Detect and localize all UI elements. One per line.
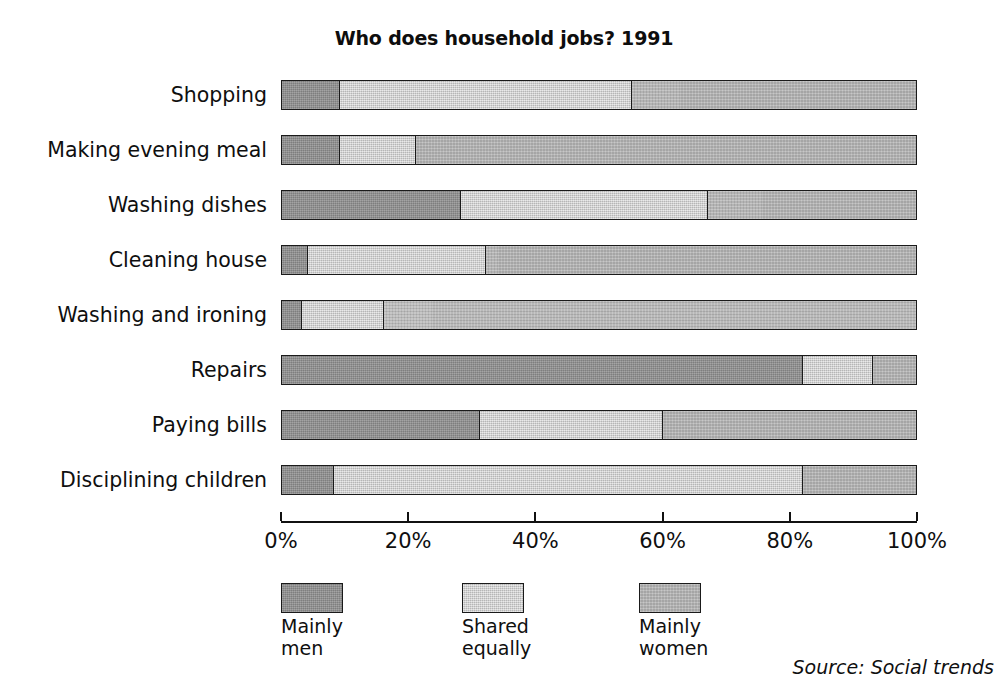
bar-segment	[307, 246, 485, 274]
legend-label-shared-equally: Shared equally	[462, 615, 632, 659]
bar-category-label: Cleaning house	[0, 245, 281, 275]
bar-segment	[282, 81, 339, 109]
bar-track	[281, 410, 917, 440]
x-axis-tick	[916, 512, 918, 521]
x-axis-tick	[534, 512, 536, 521]
legend-swatch-mainly-men	[281, 583, 343, 613]
bar-track	[281, 300, 917, 330]
bar-row: Washing dishes	[281, 190, 917, 220]
bar-segment	[707, 191, 916, 219]
bar-segment	[383, 301, 916, 329]
bar-track	[281, 245, 917, 275]
x-axis-tick-label: 20%	[348, 529, 468, 553]
x-axis-tick	[662, 512, 664, 521]
bar-category-label: Repairs	[0, 355, 281, 385]
bar-segment	[282, 136, 339, 164]
x-axis-tick-label: 60%	[603, 529, 723, 553]
bar-category-label: Washing and ironing	[0, 300, 281, 330]
legend-swatch-shared-equally	[462, 583, 524, 613]
legend-label-line2: women	[639, 637, 809, 659]
legend-item-mainly-men: Mainly men	[281, 583, 451, 659]
bar-segment	[339, 136, 415, 164]
bar-category-label: Making evening meal	[0, 135, 281, 165]
x-axis-line	[281, 521, 917, 523]
bar-segment	[282, 246, 307, 274]
x-axis-tick-label: 0%	[221, 529, 341, 553]
x-axis-tick-label: 100%	[857, 529, 977, 553]
x-axis-tick	[407, 512, 409, 521]
bar-segment	[460, 191, 707, 219]
bar-category-label: Disciplining children	[0, 465, 281, 495]
legend-label-line1: Mainly	[281, 615, 451, 637]
legend-swatch-mainly-women	[639, 583, 701, 613]
bar-segment	[415, 136, 916, 164]
bar-segment	[333, 466, 802, 494]
legend-label-mainly-men: Mainly men	[281, 615, 451, 659]
bar-segment	[802, 356, 872, 384]
bar-segment	[282, 301, 301, 329]
bar-segment	[282, 191, 460, 219]
bar-row: Paying bills	[281, 410, 917, 440]
legend-item-shared-equally: Shared equally	[462, 583, 632, 659]
bar-segment	[282, 466, 333, 494]
bar-segment	[282, 356, 802, 384]
legend-label-line1: Mainly	[639, 615, 809, 637]
bar-track	[281, 465, 917, 495]
legend-item-mainly-women: Mainly women	[639, 583, 809, 659]
x-axis-tick	[789, 512, 791, 521]
bar-segment	[485, 246, 916, 274]
legend-label-line2: equally	[462, 637, 632, 659]
bar-category-label: Paying bills	[0, 410, 281, 440]
legend-label-mainly-women: Mainly women	[639, 615, 809, 659]
x-axis-tick-label: 40%	[475, 529, 595, 553]
bar-segment	[282, 411, 479, 439]
bar-segment	[802, 466, 916, 494]
bar-row: Disciplining children	[281, 465, 917, 495]
bar-segment	[631, 81, 916, 109]
bar-track	[281, 355, 917, 385]
legend-label-line2: men	[281, 637, 451, 659]
bar-segment	[479, 411, 663, 439]
bar-segment	[301, 301, 383, 329]
bar-row: Cleaning house	[281, 245, 917, 275]
bar-track	[281, 190, 917, 220]
x-axis-tick	[280, 512, 282, 521]
x-axis-tick-label: 80%	[730, 529, 850, 553]
bar-track	[281, 80, 917, 110]
bar-category-label: Washing dishes	[0, 190, 281, 220]
source-note: Source: Social trends	[793, 656, 994, 678]
bar-row: Washing and ironing	[281, 300, 917, 330]
bar-track	[281, 135, 917, 165]
bar-row: Making evening meal	[281, 135, 917, 165]
bar-category-label: Shopping	[0, 80, 281, 110]
legend-label-line1: Shared	[462, 615, 632, 637]
bar-segment	[872, 356, 916, 384]
bar-segment	[662, 411, 916, 439]
bar-row: Repairs	[281, 355, 917, 385]
bar-segment	[339, 81, 631, 109]
bar-row: Shopping	[281, 80, 917, 110]
